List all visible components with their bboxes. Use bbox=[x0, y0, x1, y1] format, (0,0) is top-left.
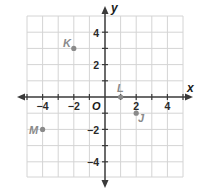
y-axis-label: y bbox=[110, 1, 119, 15]
y-tick-label: −2 bbox=[87, 124, 99, 136]
x-tick-label: −4 bbox=[37, 100, 49, 112]
origin-label: O bbox=[92, 100, 101, 112]
x-tick-label: 2 bbox=[133, 100, 139, 112]
x-tick-label: −2 bbox=[68, 100, 80, 112]
x-axis-label: x bbox=[186, 81, 195, 95]
x-axis-left-arrow-icon bbox=[17, 94, 25, 101]
y-axis-down-arrow-icon bbox=[102, 180, 109, 188]
point-label: M bbox=[29, 124, 39, 136]
x-tick-label: 4 bbox=[164, 100, 170, 112]
point-label: J bbox=[138, 112, 145, 124]
y-tick-label: 2 bbox=[93, 59, 99, 71]
point-label: K bbox=[63, 37, 72, 49]
y-tick-label: 4 bbox=[93, 27, 99, 39]
point-J: J bbox=[134, 111, 145, 124]
coordinate-plane: x y −4 −2 2 4 4 2 −2 −4 O K L J M bbox=[0, 0, 200, 196]
point-K: K bbox=[63, 37, 76, 51]
y-tick-label: −4 bbox=[87, 156, 99, 168]
y-axis-up-arrow-icon bbox=[102, 6, 109, 14]
point-L: L bbox=[117, 82, 124, 100]
point-label: L bbox=[117, 82, 124, 94]
